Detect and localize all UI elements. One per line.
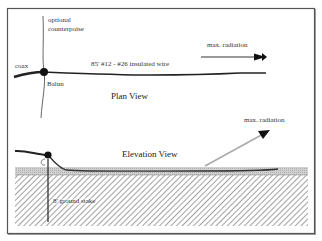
coax-elevation xyxy=(15,151,46,155)
elevation-view-title: Elevation View xyxy=(122,150,178,159)
antenna-wire-plan xyxy=(44,72,266,75)
balun-elevation-icon xyxy=(44,151,51,158)
elevation-radiation-label: max. radiation xyxy=(244,117,284,124)
plan-radiation-label: max. radiation xyxy=(207,42,247,49)
balun-icon xyxy=(40,68,48,76)
coax-cable xyxy=(14,72,44,77)
ground-stake-label: 8' ground stake xyxy=(53,198,95,205)
counterpoise-loop xyxy=(41,159,45,165)
balun-label: Balun xyxy=(47,81,64,88)
counterpoise-label: optional xyxy=(48,17,71,24)
counterpoise-label-2: counterpoise xyxy=(48,26,84,33)
radiation-arrow-elevation xyxy=(205,133,265,166)
coax-label: coax xyxy=(15,63,28,70)
wire-label: 85' #12 - #26 insulated wire xyxy=(91,61,169,68)
plan-view-title: Plan View xyxy=(111,92,148,101)
counterpoise-wire xyxy=(41,16,45,118)
